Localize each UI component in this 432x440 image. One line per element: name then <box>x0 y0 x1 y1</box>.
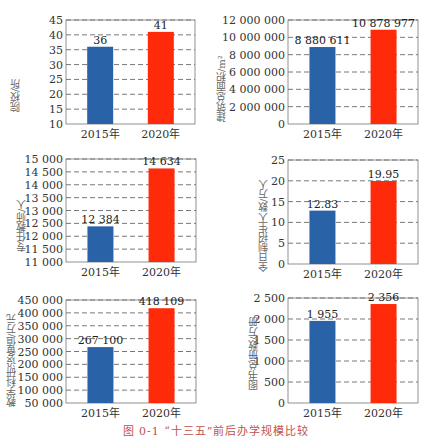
chart-books: 05001 0001 5002 0002 5001 9552015年2 3562… <box>0 0 432 440</box>
bar-2015 <box>309 321 335 403</box>
y-tick-label: 500 <box>264 376 285 389</box>
x-category-label: 2015年 <box>303 406 342 420</box>
y-axis-label: 图书总册数/万册 <box>246 300 261 390</box>
figure-caption: 图 0-1 “十三五”前后办学规模比较 <box>0 422 432 438</box>
bar-value-label: 1 955 <box>307 308 339 321</box>
bar-2020 <box>371 304 397 403</box>
chart-svg: 05001 0001 5002 0002 5001 9552015年2 3562… <box>0 0 432 440</box>
y-tick-label: 0 <box>278 397 285 410</box>
x-category-label: 2020年 <box>364 406 403 420</box>
bar-value-label: 2 356 <box>368 291 400 304</box>
